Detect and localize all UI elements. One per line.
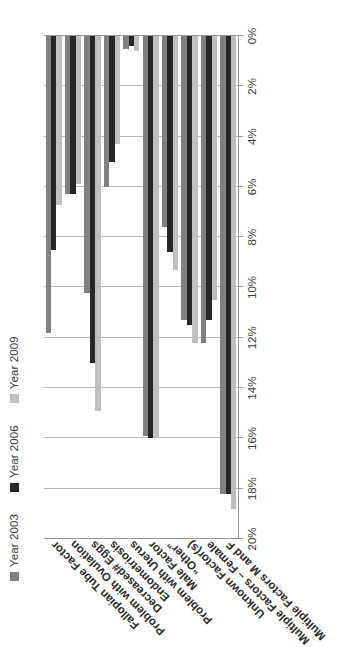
axis-tickmark (238, 387, 243, 388)
axis-tick-label: 12% (246, 326, 258, 349)
axis-tickmark (238, 236, 243, 237)
category-axis-labels: Fallopian Tube FactorProblem with Ovulat… (44, 539, 238, 593)
axis-tick-label: 2% (246, 78, 258, 95)
axis-tickmark (238, 488, 243, 489)
value-axis-tick-labels: 20%18%16%14%12%10%8%6%4%2%0% (246, 36, 286, 539)
bar-group (141, 36, 160, 539)
bar[interactable] (134, 36, 139, 51)
axis-tickmark (238, 35, 243, 36)
legend-entry[interactable]: Year 2009 (8, 336, 20, 403)
bar-group (219, 36, 238, 539)
bar-group (44, 36, 63, 539)
axis-tickmark (238, 538, 243, 539)
bar-group (122, 36, 141, 539)
bar-groups (44, 36, 238, 539)
axis-tick-label: 6% (246, 179, 258, 196)
axis-tick-label: 8% (246, 229, 258, 246)
axis-tickmark (238, 437, 243, 438)
legend-label: Year 2003 (8, 514, 20, 567)
legend-swatch (10, 394, 19, 403)
axis-tick-label: 20% (246, 527, 258, 550)
legend-entry[interactable]: Year 2006 (8, 425, 20, 492)
bar[interactable] (153, 36, 158, 438)
bar[interactable] (56, 36, 61, 205)
plot-area (44, 36, 238, 539)
bar[interactable] (212, 36, 217, 300)
axis-tick-label: 18% (246, 477, 258, 500)
axis-tick-label: 16% (246, 427, 258, 450)
legend-label: Year 2009 (8, 336, 20, 389)
legend-swatch (10, 483, 19, 492)
bar-group (63, 36, 82, 539)
axis-tickmark (238, 136, 243, 137)
bar[interactable] (192, 36, 197, 343)
bar[interactable] (173, 36, 178, 270)
legend-label: Year 2006 (8, 425, 20, 478)
legend-swatch (10, 572, 19, 581)
axis-tickmark (238, 85, 243, 86)
bar[interactable] (76, 36, 81, 184)
axis-tickmark (238, 287, 243, 288)
bar[interactable] (231, 36, 236, 509)
bar-group (160, 36, 179, 539)
chart-legend: Year 2003Year 2006Year 2009 (8, 336, 20, 581)
bar-group (83, 36, 102, 539)
bar[interactable] (95, 36, 100, 411)
axis-tick-label: 14% (246, 377, 258, 400)
bar-group (102, 36, 121, 539)
value-axis-ticks (238, 36, 246, 539)
bar-group (199, 36, 218, 539)
axis-tickmark (238, 186, 243, 187)
legend-entry[interactable]: Year 2003 (8, 514, 20, 581)
category-label: Multiple Factors – Female (203, 539, 311, 647)
bar[interactable] (115, 36, 120, 144)
axis-tickmark (238, 337, 243, 338)
axis-tick-label: 10% (246, 276, 258, 299)
axis-tick-label: 0% (246, 28, 258, 45)
axis-tick-label: 4% (246, 128, 258, 145)
bar-group (180, 36, 199, 539)
